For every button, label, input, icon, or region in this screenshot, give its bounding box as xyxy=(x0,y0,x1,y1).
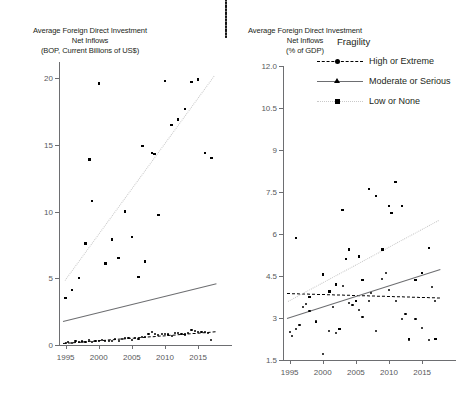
data-point xyxy=(361,279,363,281)
y-tick-label: 6 xyxy=(249,230,277,239)
data-point xyxy=(64,297,66,299)
y-tick-label: 0 xyxy=(25,341,53,350)
data-point xyxy=(302,306,304,308)
panel-left-title-line-1: Average Foreign Direct Investment xyxy=(0,26,180,36)
data-point xyxy=(322,273,324,275)
data-point xyxy=(341,209,343,211)
data-point xyxy=(351,304,353,306)
data-point xyxy=(421,327,423,329)
data-point xyxy=(335,283,337,285)
legend-item-high-or-extreme[interactable]: High or Extreme xyxy=(317,54,457,68)
data-point xyxy=(428,339,430,341)
data-point xyxy=(388,289,390,291)
x-tick xyxy=(165,345,166,349)
x-axis-line xyxy=(59,345,232,346)
data-point xyxy=(137,276,139,278)
x-tick xyxy=(66,345,67,349)
data-point xyxy=(298,324,300,326)
data-point xyxy=(434,300,436,302)
data-point xyxy=(171,335,173,337)
data-point xyxy=(170,124,172,126)
data-point xyxy=(78,341,80,343)
panel-left-title-line-3: (BOP, Current Billions of US$) xyxy=(0,46,180,56)
legend-triangle-icon xyxy=(334,78,340,83)
y-axis-line xyxy=(59,62,60,345)
trend-line-low-or-none xyxy=(65,76,215,281)
y-tick xyxy=(279,234,283,235)
data-point xyxy=(91,341,93,343)
legend-line-swatch xyxy=(317,61,363,62)
x-tick xyxy=(290,360,291,364)
y-tick xyxy=(279,66,283,67)
data-point xyxy=(161,333,163,335)
data-point xyxy=(375,195,377,197)
x-tick-label: 2015 xyxy=(189,353,207,362)
data-point xyxy=(141,336,143,338)
data-point xyxy=(131,236,133,238)
data-point xyxy=(295,328,297,330)
y-tick xyxy=(279,192,283,193)
data-point xyxy=(108,340,110,342)
x-tick xyxy=(356,360,357,364)
data-point xyxy=(190,81,192,83)
data-point xyxy=(157,214,159,216)
data-point xyxy=(204,152,206,154)
data-point xyxy=(118,340,120,342)
data-point xyxy=(124,210,126,212)
data-point xyxy=(308,296,310,298)
legend-item-low-or-none[interactable]: Low or None xyxy=(317,94,457,108)
x-tick xyxy=(99,345,100,349)
data-point xyxy=(431,286,433,288)
data-point xyxy=(91,200,93,202)
data-point xyxy=(414,279,416,281)
x-tick-label: 2015 xyxy=(413,368,431,377)
data-point xyxy=(84,341,86,343)
data-point xyxy=(335,332,337,334)
data-point xyxy=(358,309,360,311)
y-tick xyxy=(279,276,283,277)
data-point xyxy=(147,333,149,335)
y-tick-label: 12.0 xyxy=(249,62,277,71)
trend-line-moderate-or-serious xyxy=(63,284,216,323)
data-point xyxy=(355,300,357,302)
data-point xyxy=(144,260,146,262)
data-point xyxy=(338,328,340,330)
y-tick xyxy=(55,345,59,346)
data-point xyxy=(361,316,363,318)
x-tick xyxy=(132,345,133,349)
data-point xyxy=(225,35,227,38)
y-axis-line xyxy=(283,66,284,360)
panel-left: Average Foreign Direct Investment Net In… xyxy=(0,0,227,406)
data-point xyxy=(315,321,317,323)
data-point xyxy=(197,78,199,80)
data-point xyxy=(328,330,330,332)
data-point xyxy=(395,300,397,302)
data-point xyxy=(164,80,166,82)
legend-circle-icon xyxy=(335,59,340,64)
x-axis-line xyxy=(283,360,456,361)
data-point xyxy=(328,290,330,292)
y-tick-label: 20 xyxy=(25,74,53,83)
data-point xyxy=(408,338,410,340)
data-point xyxy=(210,157,212,159)
x-tick xyxy=(323,360,324,364)
legend-item-moderate-or-serious[interactable]: Moderate or Serious xyxy=(317,74,457,88)
data-point xyxy=(84,242,86,244)
x-tick-label: 2005 xyxy=(347,368,365,377)
data-point xyxy=(141,145,143,147)
trend-line-low-or-none xyxy=(288,220,440,302)
legend-item-label: Moderate or Serious xyxy=(369,74,451,88)
y-tick xyxy=(55,145,59,146)
data-point xyxy=(348,302,350,304)
x-tick xyxy=(422,360,423,364)
y-tick-label: 1.5 xyxy=(249,356,277,365)
data-point xyxy=(111,340,113,342)
legend-line-swatch xyxy=(317,101,363,102)
legend-item-label: Low or None xyxy=(369,94,420,108)
data-point xyxy=(291,335,293,337)
legend-line-swatch xyxy=(317,81,363,82)
y-tick xyxy=(55,78,59,79)
x-tick-label: 1995 xyxy=(281,368,299,377)
y-tick xyxy=(279,108,283,109)
